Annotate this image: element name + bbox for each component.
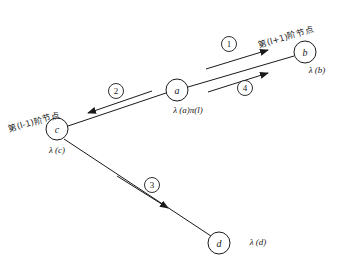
- node-label-c: c: [55, 124, 60, 135]
- step-number-1: 1: [227, 39, 232, 49]
- node-level-diagram: 第(l+1)阶节点 第(l-1)阶节点 1234abcdλ (a)π(l)λ (…: [0, 0, 343, 274]
- step-arrow-3: [117, 176, 168, 208]
- node-label-d: d: [216, 238, 221, 249]
- step-arrows-group: [88, 37, 268, 209]
- node-label-b: b: [302, 47, 307, 58]
- step-number-3: 3: [150, 180, 155, 190]
- step-number-2: 2: [114, 86, 119, 96]
- nodes-group: [46, 41, 316, 254]
- edge-c-d: [64, 139, 211, 236]
- step-number-4: 4: [243, 83, 248, 93]
- diagram-canvas: [0, 0, 343, 274]
- node-value-label-b: λ (b): [309, 65, 326, 75]
- node-value-label-c: λ (c): [49, 145, 65, 155]
- node-value-label-d: λ (d): [250, 237, 267, 247]
- node-label-a: a: [174, 85, 179, 96]
- node-value-label-a: λ (a)π(l): [173, 105, 203, 115]
